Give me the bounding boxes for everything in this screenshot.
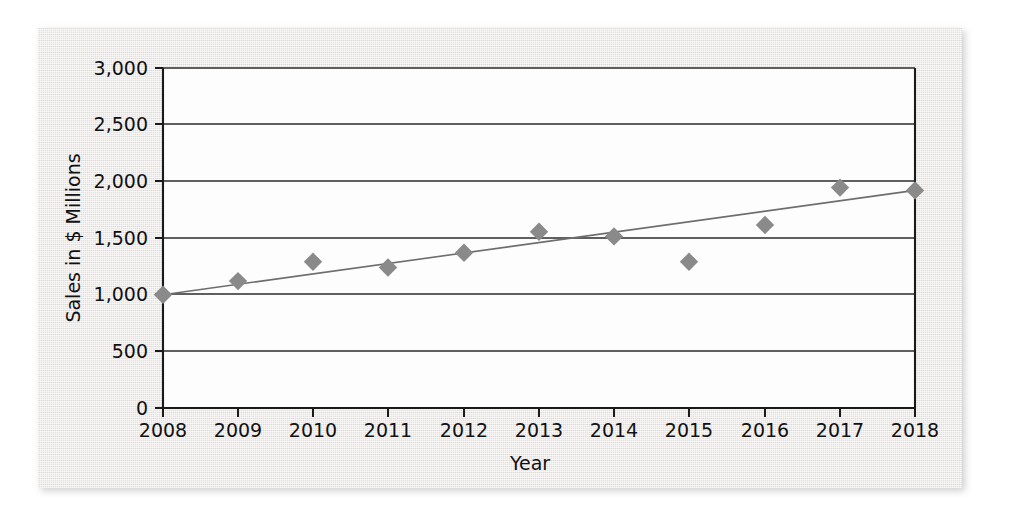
y-tick-label-1000: 1,000 — [94, 283, 148, 305]
y-tick-label-500: 500 — [112, 340, 148, 362]
y-tick-label-3000: 3,000 — [94, 57, 148, 79]
x-tick-label-2013: 2013 — [515, 419, 563, 441]
x-tick-label-2017: 2017 — [816, 419, 864, 441]
y-tick-marks — [155, 68, 163, 408]
chart-svg: 3,000 2,500 2,000 1,500 1,000 500 0 — [0, 0, 1009, 518]
sales-scatter-chart: 3,000 2,500 2,000 1,500 1,000 500 0 — [0, 0, 1009, 518]
x-tick-label-2010: 2010 — [289, 419, 337, 441]
y-tick-label-2500: 2,500 — [94, 113, 148, 135]
y-axis-title: Sales in $ Millions — [62, 153, 84, 322]
x-axis-title: Year — [509, 452, 550, 474]
y-tick-label-0: 0 — [136, 397, 148, 419]
chart-page: 3,000 2,500 2,000 1,500 1,000 500 0 — [0, 0, 1009, 518]
x-tick-label-2012: 2012 — [440, 419, 488, 441]
x-tick-marks — [163, 408, 915, 417]
y-tick-label-1500: 1,500 — [94, 227, 148, 249]
x-tick-label-2008: 2008 — [139, 419, 187, 441]
x-tick-label-2011: 2011 — [364, 419, 412, 441]
x-tick-label-2018: 2018 — [891, 419, 939, 441]
y-tick-label-2000: 2,000 — [94, 170, 148, 192]
x-tick-label-2016: 2016 — [741, 419, 789, 441]
x-tick-label-2009: 2009 — [214, 419, 262, 441]
x-tick-label-2014: 2014 — [590, 419, 638, 441]
x-tick-label-2015: 2015 — [665, 419, 713, 441]
